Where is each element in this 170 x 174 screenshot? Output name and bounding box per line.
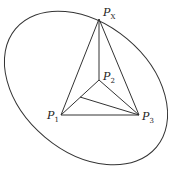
label-p3: P3: [141, 110, 154, 125]
edge-px-p3: [99, 19, 139, 115]
bounding-ellipse: [0, 0, 170, 174]
edge-inner-p3: [80, 97, 139, 115]
label-p2: P2: [102, 70, 115, 85]
edge-p2-p3: [99, 80, 139, 115]
geometry-diagram: PX P2 P1 P3: [0, 0, 170, 174]
label-p1: P1: [46, 109, 59, 124]
label-px: PX: [102, 6, 115, 21]
